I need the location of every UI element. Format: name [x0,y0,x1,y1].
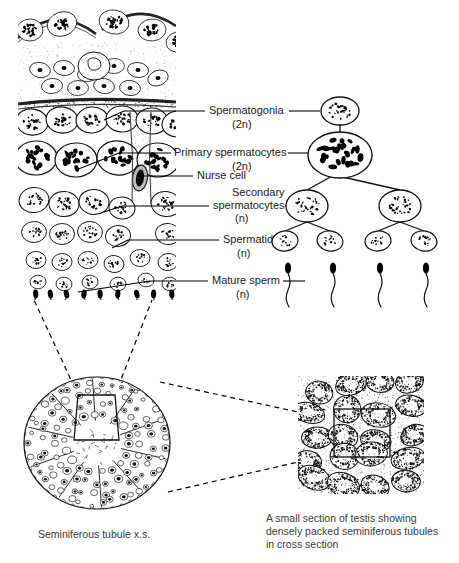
label-spermatids-text: Spermatids [223,233,279,245]
caption-right-line3: in cross section [266,538,339,550]
label-mature-sperm-text: Mature sperm [212,274,280,286]
lineage-secondary-spermatocyte-1 [286,190,328,222]
testis-inset-panel [291,367,431,502]
spermatogenesis-diagram: Spermatogonia (2n) Primary spermatocytes… [0,0,459,563]
caption-right-line1: A small section of testis showing [266,512,417,524]
label-nurse-cell-text: Nurse cell [197,169,246,181]
label-primary-spermatocytes-text: Primary spermatocytes [174,146,287,158]
lineage-primary-spermatocyte [308,132,372,178]
caption-right-line2: densely packed seminiferous tubules [266,525,438,537]
label-spermatogonia-text: Spermatogonia [209,104,284,116]
label-spermatogonia-ploidy: (2n) [232,118,252,130]
label-nurse-cell: Nurse cell [197,169,246,181]
lineage-secondary-spermatocyte-2 [379,190,421,222]
lineage-spermatogonium [321,97,359,125]
label-spermatids-ploidy: (n) [237,247,250,259]
label-secondary-spermatocytes-ploidy: (n) [235,212,248,224]
figure-canvas: Spermatogonia (2n) Primary spermatocytes… [0,0,459,563]
caption-left: Seminiferous tubule x.s. [38,528,150,540]
label-mature-sperm-ploidy: (n) [236,288,249,300]
label-secondary-spermatocytes-text-line1: Secondary [232,186,285,198]
tissue-detail-panel [14,7,195,325]
label-secondary-spermatocytes-text-line2: spermatocytes [213,199,285,211]
